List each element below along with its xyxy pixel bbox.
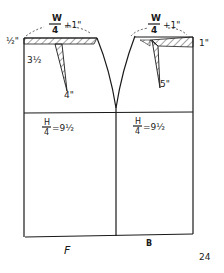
back-waist-hatch-small <box>140 40 150 46</box>
front-waist-hatch <box>24 38 97 44</box>
front-dart-length-label: 4" <box>64 90 74 100</box>
skirt-length-label: 24 <box>199 252 211 262</box>
back-waist-arc-left <box>131 28 148 36</box>
back-dart <box>152 40 160 88</box>
skirt-pattern-diagram: W 4 +1" W 4 +1" ½" 3½ 4" 1" 5" H 4 =9½ H… <box>0 0 224 273</box>
front-panel-label: F <box>64 244 71 257</box>
front-waist-arc-left <box>26 27 44 36</box>
hem-line <box>25 234 193 237</box>
back-panel-label: B <box>146 239 152 248</box>
front-hip-formula-num: H <box>44 118 50 127</box>
back-waist-plus: +1" <box>163 20 180 30</box>
front-waist-formula-den: 4 <box>52 25 58 35</box>
back-hip-formula-num: H <box>135 117 141 126</box>
front-waist-drop-label: ½" <box>6 36 19 46</box>
back-waist-formula-den: 4 <box>151 25 157 35</box>
hip-line <box>24 112 193 113</box>
back-waist-drop-label: 1" <box>199 38 209 48</box>
front-hip-formula-den: 4 <box>44 128 49 137</box>
back-side-seam-curve <box>116 36 135 108</box>
back-hip-formula-den: 4 <box>135 127 140 136</box>
front-dart-depth-label: 3½ <box>27 55 42 65</box>
back-dart-length-label: 5" <box>160 79 170 89</box>
back-waist-formula-num: W <box>151 13 161 23</box>
front-waist-plus: +1" <box>64 20 81 30</box>
front-dart <box>55 44 67 91</box>
front-waist-formula-num: W <box>52 13 62 23</box>
front-hip-value: =9½ <box>52 123 74 133</box>
front-side-seam-curve <box>97 38 116 108</box>
back-hip-value: =9½ <box>143 122 165 132</box>
